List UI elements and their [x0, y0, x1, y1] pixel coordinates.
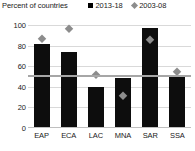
chart-legend: 2013-18 2003-08 — [88, 1, 166, 10]
bar-chart: Percent of countries 2013-18 2003-08 100… — [0, 0, 195, 151]
x-tick-label: ECA — [55, 131, 82, 140]
legend-label: 2013-18 — [96, 1, 123, 10]
y-tick-label: 60 — [0, 62, 26, 71]
x-tick-label: MNA — [110, 131, 137, 140]
y-tick-label: 20 — [0, 103, 26, 112]
bar-group-mna — [110, 25, 137, 128]
bar-group-eca — [55, 25, 82, 128]
y-tick-label: 40 — [0, 82, 26, 91]
diamond-marker-icon — [131, 2, 138, 9]
diamond-marker-icon — [38, 35, 46, 43]
diamond-marker-icon — [65, 24, 73, 32]
plot-area — [28, 25, 191, 128]
y-tick-label: 0 — [0, 124, 26, 133]
chart-title: Percent of countries — [2, 1, 68, 10]
bar-group-lac — [82, 25, 109, 128]
x-axis: EAPECALACMNASARSSA — [28, 131, 191, 140]
reference-line — [28, 75, 191, 77]
bar — [61, 52, 77, 128]
bar — [169, 77, 185, 129]
x-tick-label: SAR — [137, 131, 164, 140]
x-tick-label: EAP — [28, 131, 55, 140]
bar — [115, 78, 131, 128]
legend-label: 2003-08 — [139, 1, 166, 10]
x-tick-label: LAC — [82, 131, 109, 140]
legend-item-2003-08: 2003-08 — [132, 1, 167, 10]
x-tick-label: SSA — [164, 131, 191, 140]
y-tick-label: 100 — [0, 21, 26, 30]
y-tick-label: 80 — [0, 41, 26, 50]
bar-series — [28, 25, 191, 128]
square-marker-icon — [88, 3, 93, 8]
bar-group-ssa — [164, 25, 191, 128]
x-axis-line — [28, 127, 191, 128]
bar-group-sar — [137, 25, 164, 128]
legend-item-2013-18: 2013-18 — [88, 1, 123, 10]
bar — [88, 87, 104, 128]
bar — [34, 44, 50, 128]
bar-group-eap — [28, 25, 55, 128]
y-axis: 100 80 60 40 20 0 — [0, 25, 26, 128]
